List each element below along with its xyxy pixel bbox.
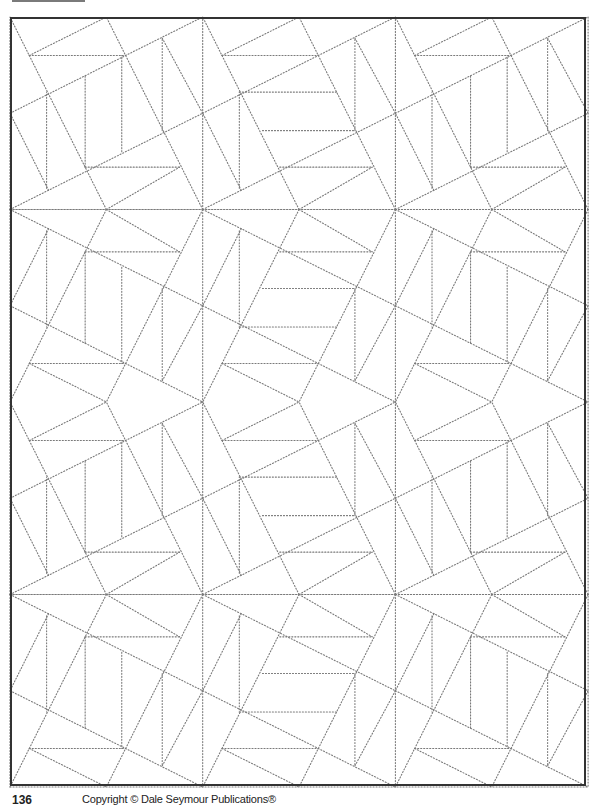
copyright-notice: Copyright © Dale Seymour Publications® — [82, 793, 276, 805]
worksheet-frame — [10, 17, 586, 786]
page-number: 136 — [12, 793, 32, 807]
page-footer: 136 Copyright © Dale Seymour Publication… — [0, 793, 596, 809]
